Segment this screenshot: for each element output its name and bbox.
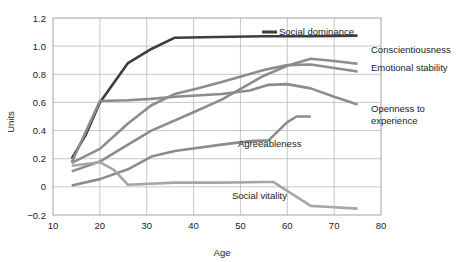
y-tick-label: 1.2	[33, 13, 46, 24]
y-tick-label: 1.0	[33, 41, 46, 52]
x-axis-title: Age	[214, 247, 231, 258]
x-tick-label: 20	[95, 220, 106, 231]
x-tick-label: 60	[282, 220, 293, 231]
line-chart: Social dominanceConscientiousnessEmotion…	[0, 0, 464, 262]
x-tick-label: 80	[376, 220, 387, 231]
x-tick-label: 40	[188, 220, 199, 231]
x-tick-label: 50	[235, 220, 246, 231]
series-label-social-vitality: Social vitality	[232, 190, 287, 201]
y-tick-label: 0.6	[33, 97, 46, 108]
series-label-openness-to-experience: experience	[371, 115, 417, 126]
series-label-social-dominance: Social dominance	[279, 26, 354, 37]
series-label-openness-to-experience: Openness to	[371, 103, 425, 114]
x-tick-label: 10	[48, 220, 59, 231]
y-tick-label: 0.8	[33, 69, 46, 80]
series-label-conscientiousness: Conscientiousness	[371, 44, 451, 55]
series-label-agreeableness: Agreeableness	[238, 138, 302, 149]
y-tick-label: 0.2	[33, 153, 46, 164]
y-tick-label: −0.2	[27, 210, 46, 221]
x-tick-label: 70	[329, 220, 340, 231]
series-label-emotional-stability: Emotional stability	[371, 62, 448, 73]
x-tick-label: 30	[141, 220, 152, 231]
chart-background	[0, 0, 464, 262]
chart-canvas: Social dominanceConscientiousnessEmotion…	[0, 0, 464, 262]
y-axis-title: Units	[5, 111, 16, 133]
y-tick-label: 0.4	[33, 125, 46, 136]
y-tick-label: 0	[41, 181, 46, 192]
